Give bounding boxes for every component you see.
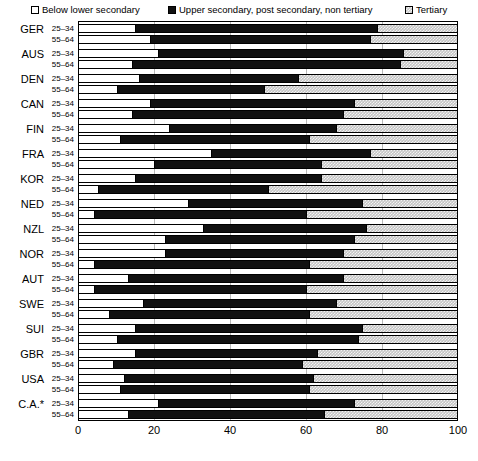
age-group-label: 55–64 (44, 285, 74, 294)
age-group-label: 25–34 (44, 374, 74, 383)
age-group-label: 55–64 (44, 60, 74, 69)
table-row (78, 310, 458, 319)
bar-segment-below-lower-secondary (79, 150, 211, 157)
table-row (78, 174, 458, 183)
bar-segment-upper-secondary (118, 336, 359, 343)
bar-segment-tertiary (322, 161, 457, 168)
bar-segment-upper-secondary (121, 386, 309, 393)
country-label: NOR (4, 248, 44, 260)
table-row (78, 260, 458, 269)
country-label: SUI (4, 323, 44, 335)
table-row (78, 199, 458, 208)
country-label: AUS (4, 48, 44, 60)
age-group-label: 25–34 (44, 24, 74, 33)
bar-segment-tertiary (314, 375, 457, 382)
table-row (78, 110, 458, 119)
x-axis-tick-label: 0 (75, 424, 81, 437)
age-group-label: 55–64 (44, 235, 74, 244)
age-group-label: 55–64 (44, 85, 74, 94)
age-group-label: 55–64 (44, 110, 74, 119)
bar-segment-below-lower-secondary (79, 300, 143, 307)
bar-segment-tertiary (325, 411, 457, 418)
table-row (78, 249, 458, 258)
table-row (78, 299, 458, 308)
bar-segment-upper-secondary (136, 325, 362, 332)
age-group-label: 25–34 (44, 349, 74, 358)
bar-segment-below-lower-secondary (79, 236, 165, 243)
table-row (78, 24, 458, 33)
bar-segment-below-lower-secondary (79, 211, 94, 218)
x-axis-tick-label: 60 (300, 424, 312, 437)
bar-segment-upper-secondary (110, 311, 309, 318)
table-row (78, 35, 458, 44)
bar-segment-upper-secondary (129, 275, 343, 282)
square-outline-white-icon (31, 6, 39, 14)
age-group-label: 25–34 (44, 274, 74, 283)
country-label: AUT (4, 273, 44, 285)
bar-segment-below-lower-secondary (79, 311, 109, 318)
age-group-label: 25–34 (44, 174, 74, 183)
bar-segment-tertiary (355, 400, 457, 407)
age-group-label: 55–64 (44, 185, 74, 194)
country-label: NED (4, 198, 44, 210)
bar-segment-tertiary (371, 36, 457, 43)
legend-item-tertiary: Tertiary (405, 5, 447, 15)
bar-segment-tertiary (367, 225, 457, 232)
age-group-label: 25–34 (44, 149, 74, 158)
table-row (78, 49, 458, 58)
table-row (78, 85, 458, 94)
age-group-label: 25–34 (44, 124, 74, 133)
bar-segment-upper-secondary (133, 61, 400, 68)
country-label: NZL (4, 223, 44, 235)
age-group-label: 55–64 (44, 410, 74, 419)
legend-label: Tertiary (416, 5, 447, 15)
bar-segment-tertiary (363, 325, 457, 332)
bar-segment-tertiary (344, 275, 457, 282)
table-row (78, 374, 458, 383)
square-hatched-grey-icon (405, 6, 413, 14)
bar-segment-below-lower-secondary (79, 250, 165, 257)
bar-segment-upper-secondary (121, 136, 309, 143)
bar-segment-below-lower-secondary (79, 100, 150, 107)
age-group-label: 25–34 (44, 224, 74, 233)
bar-segment-upper-secondary (166, 250, 343, 257)
bar-segment-upper-secondary (140, 75, 298, 82)
age-group-label: 25–34 (44, 99, 74, 108)
bar-segment-tertiary (265, 86, 457, 93)
age-group-label: 55–64 (44, 360, 74, 369)
bar-segment-below-lower-secondary (79, 75, 139, 82)
bar-segment-upper-secondary (204, 225, 366, 232)
bar-segment-tertiary (363, 200, 457, 207)
table-row (78, 274, 458, 283)
table-row (78, 160, 458, 169)
bar-segment-upper-secondary (166, 236, 354, 243)
bar-segment-below-lower-secondary (79, 286, 94, 293)
legend-item-upper-secondary: Upper secondary, post secondary, non ter… (168, 5, 372, 15)
country-label: SWE (4, 298, 44, 310)
bar-segment-below-lower-secondary (79, 325, 135, 332)
bar-segment-tertiary (322, 175, 457, 182)
bar-segment-below-lower-secondary (79, 161, 154, 168)
age-group-label: 55–64 (44, 385, 74, 394)
country-label: KOR (4, 173, 44, 185)
bar-segment-upper-secondary (118, 86, 265, 93)
country-label: FIN (4, 123, 44, 135)
bar-segment-tertiary (310, 136, 457, 143)
x-axis-tick-label: 80 (376, 424, 388, 437)
age-group-label: 25–34 (44, 299, 74, 308)
age-group-label: 25–34 (44, 199, 74, 208)
table-row (78, 335, 458, 344)
bar-segment-upper-secondary (99, 186, 268, 193)
table-row (78, 60, 458, 69)
bar-segment-upper-secondary (125, 375, 313, 382)
bar-segment-upper-secondary (133, 111, 344, 118)
table-row (78, 124, 458, 133)
x-axis-tick-label: 20 (148, 424, 160, 437)
country-label: DEN (4, 73, 44, 85)
legend-item-below-lower-secondary: Below lower secondary (31, 5, 140, 15)
country-label: GER (4, 23, 44, 35)
table-row (78, 410, 458, 419)
bar-segment-below-lower-secondary (79, 136, 120, 143)
bar-segment-tertiary (371, 150, 457, 157)
table-row (78, 135, 458, 144)
